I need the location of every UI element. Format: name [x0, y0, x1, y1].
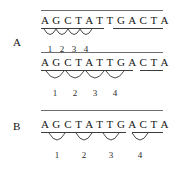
sequence-text: A G C T A T T G A C T A A: [41, 14, 163, 26]
segment-number: 3: [93, 88, 98, 99]
top-rule: [41, 110, 163, 111]
panel-label-b: B: [13, 120, 20, 132]
sequence-text: A G C T A T T G A C T A A: [41, 56, 163, 68]
segment-number: 2: [82, 150, 87, 161]
segment-number: 4: [138, 150, 143, 161]
segment-number: 1: [55, 150, 60, 161]
segment-number: 2: [73, 88, 78, 99]
segment-number: 3: [72, 44, 77, 55]
segment-number: 1: [48, 44, 53, 55]
arc-group: [41, 71, 163, 87]
top-rule: [41, 52, 163, 53]
segment-number: 4: [113, 88, 118, 99]
segment-number: 4: [84, 44, 89, 55]
panel-label-a: A: [13, 36, 21, 48]
segment-number: 1: [53, 88, 58, 99]
top-rule: [41, 10, 163, 11]
number-row: 1 2 3 4: [41, 150, 163, 162]
arc-group: [41, 29, 163, 43]
sequence-figure: A A G C T A T T G A C T A A 1 2 3 4 A G …: [0, 0, 170, 185]
sequence-text: A G C T A T T G A C T A A: [41, 118, 163, 130]
number-row: 1 2 3 4: [41, 88, 163, 100]
arc-group: [41, 133, 163, 149]
segment-number: 3: [109, 150, 114, 161]
number-row: 1 2 3 4: [41, 44, 163, 56]
segment-number: 2: [60, 44, 65, 55]
